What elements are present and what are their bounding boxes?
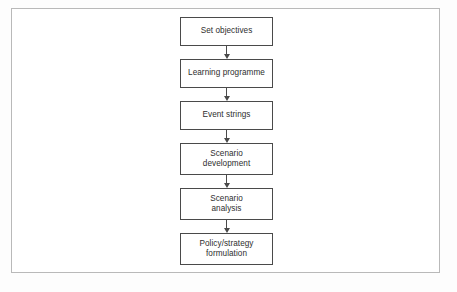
flow-arrow-scenario-development-to-scenario-analysis [222, 175, 232, 188]
flow-node-scenario-analysis[interactable]: Scenario analysis [180, 188, 273, 220]
figure-frame: Set objectives Learning programme Event … [11, 8, 440, 273]
flow-node-learning-programme[interactable]: Learning programme [180, 59, 273, 88]
flow-arrow-learning-programme-to-event-strings [222, 88, 232, 101]
flow-node-label-line: Learning programme [188, 68, 265, 79]
flow-node-policy-formulation[interactable]: Policy/strategy formulation [180, 233, 273, 265]
flow-node-label-line: Scenario [210, 194, 243, 205]
flow-node-label: Set objectives [201, 26, 253, 37]
flow-arrow-set-objectives-to-learning-programme [222, 46, 232, 59]
flow-node-label: Learning programme [188, 68, 265, 79]
flowchart: Set objectives Learning programme Event … [12, 9, 441, 274]
arrow-head-down-icon [224, 183, 230, 188]
flow-node-set-objectives[interactable]: Set objectives [180, 17, 273, 46]
flow-node-label: Event strings [203, 110, 251, 121]
flow-arrow-scenario-analysis-to-policy-formulation [222, 220, 232, 233]
flow-node-label: Policy/strategy formulation [200, 239, 254, 260]
arrow-head-down-icon [224, 54, 230, 59]
flow-node-label: Scenario development [203, 149, 250, 170]
arrow-head-down-icon [224, 228, 230, 233]
flow-node-scenario-development[interactable]: Scenario development [180, 143, 273, 175]
flow-node-event-strings[interactable]: Event strings [180, 101, 273, 130]
flow-node-label-line: analysis [210, 204, 243, 215]
arrow-head-down-icon [224, 138, 230, 143]
flow-node-label-line: formulation [200, 249, 254, 260]
flow-node-label-line: Set objectives [201, 26, 253, 37]
flow-node-label-line: Scenario [203, 149, 250, 160]
flow-node-label-line: development [203, 159, 250, 170]
flow-node-label-line: Event strings [203, 110, 251, 121]
flow-arrow-event-strings-to-scenario-development [222, 130, 232, 143]
arrow-head-down-icon [224, 96, 230, 101]
flow-node-label: Scenario analysis [210, 194, 243, 215]
flow-node-label-line: Policy/strategy [200, 239, 254, 250]
